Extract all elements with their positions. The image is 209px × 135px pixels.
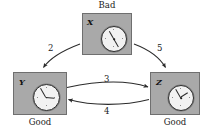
edge-label-z-y: 4 — [104, 107, 109, 116]
node-z[interactable]: Z — [150, 72, 200, 115]
edge-label-x-y: 2 — [48, 44, 53, 53]
node-x[interactable]: X — [82, 13, 132, 55]
node-y-caption: Good — [13, 118, 67, 127]
clock-icon — [168, 85, 194, 111]
clock-icon — [33, 84, 60, 111]
node-x-id: X — [87, 18, 93, 26]
node-y[interactable]: Y — [13, 72, 67, 115]
node-y-id: Y — [19, 78, 25, 86]
edge-z-to-y — [69, 100, 150, 105]
node-z-caption: Good — [150, 118, 200, 127]
edge-label-y-z: 3 — [104, 75, 109, 84]
node-x-caption: Bad — [82, 1, 132, 10]
clock-icon — [101, 26, 127, 52]
diagram-canvas: Bad X Y Good Z — [0, 0, 209, 135]
edge-label-x-z: 5 — [157, 44, 162, 53]
node-z-id: Z — [156, 78, 162, 86]
